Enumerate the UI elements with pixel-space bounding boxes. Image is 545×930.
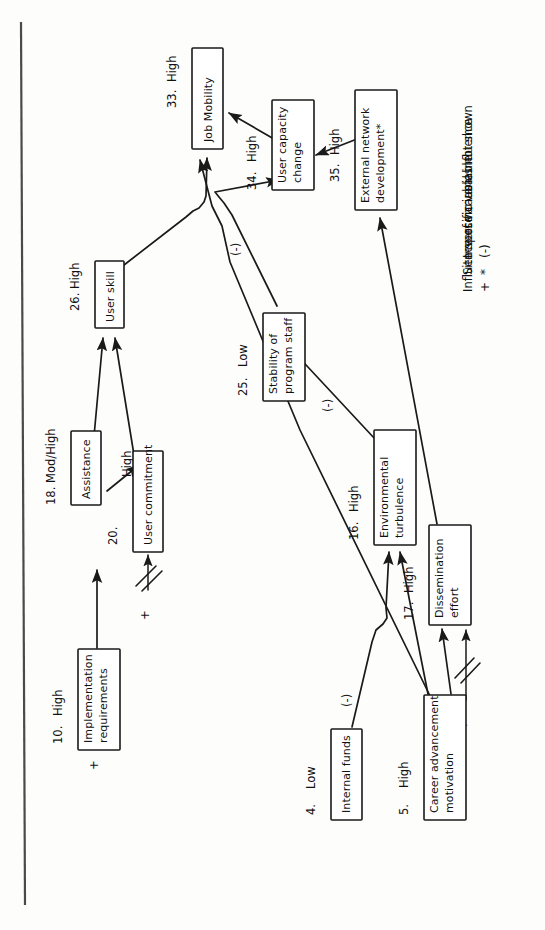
node-label-line2: effort — [448, 587, 461, 618]
sign-plus-implementation: + — [87, 760, 101, 770]
node-number: 35. — [328, 164, 342, 182]
node-number: 4. — [304, 804, 318, 815]
node-user-skill[interactable]: User skill 26. High — [68, 261, 124, 328]
diagram-canvas: + + + High (-) (-) (-) Job Mobility 33. … — [0, 0, 545, 930]
node-label-line2: change — [291, 142, 304, 183]
node-label-line1: Assistance — [80, 439, 93, 499]
node-label-line1: Implementation — [82, 654, 95, 743]
sign-negative-turbulence: (-) — [321, 399, 335, 412]
legend: + Influence of variables not shown * Sit… — [461, 105, 492, 292]
node-assistance[interactable]: Assistance 18. Mod/High — [44, 428, 101, 505]
node-level: High — [51, 690, 65, 716]
node-label-line1: Internal funds — [340, 735, 353, 813]
hashmark-dissemination-b — [461, 663, 480, 683]
node-label-line1: Career advancement — [428, 695, 441, 813]
node-label-line1: External network — [359, 107, 372, 203]
node-label-line1: User skill — [104, 271, 117, 322]
node-internal-funds[interactable]: Internal funds 4. Low — [304, 729, 362, 820]
node-level: High — [68, 263, 82, 289]
node-label-line1: User commitment — [142, 444, 155, 545]
node-level: High — [165, 56, 179, 82]
node-job-mobility[interactable]: Job Mobility 33. High — [165, 48, 223, 149]
node-label-line1: Environmental — [378, 457, 391, 538]
node-label-line1: Job Mobility — [202, 77, 215, 143]
edge-capacity-to-jobmobility — [229, 113, 274, 139]
node-level: Low — [304, 766, 318, 789]
sign-negative-stability: (-) — [229, 243, 243, 256]
node-level: Low — [236, 344, 250, 367]
node-number: 16. — [347, 522, 361, 540]
hashmark-dissemination-a — [455, 658, 474, 678]
edge-stability-to-capacity — [215, 180, 279, 306]
node-label-line2: motivation — [443, 753, 456, 813]
node-number: 20. — [106, 527, 120, 545]
node-level: High — [397, 762, 411, 788]
node-label-line2: program staff — [282, 317, 295, 394]
node-number: 33. — [165, 90, 179, 108]
node-label-line1: User capacity — [276, 106, 289, 183]
sign-negative-funds: (-) — [340, 694, 354, 707]
node-stability-of-program-staff[interactable]: Stability of program staff 25. Low — [236, 313, 305, 401]
node-number: 10. — [51, 726, 65, 744]
node-number: 17. — [402, 602, 416, 620]
node-label-line1: Dissemination — [433, 538, 446, 618]
node-number: 18. — [44, 487, 58, 505]
node-label-line2: requirements — [97, 668, 110, 743]
legend-mark-plus: + — [478, 282, 492, 292]
edge-funds-to-turbulence — [352, 552, 389, 727]
node-number: 34. — [245, 172, 259, 190]
page-edge-rule — [21, 22, 25, 905]
causal-influence-diagram: + + + High (-) (-) (-) Job Mobility 33. … — [0, 0, 545, 930]
node-level: High — [245, 136, 259, 162]
node-number: 5. — [397, 804, 411, 815]
node-number: 25. — [236, 378, 250, 396]
edge-userskill-to-jobmobility — [124, 158, 207, 265]
node-external-network-development[interactable]: External network development* 35. High — [328, 90, 397, 210]
node-label-line1: Stability of — [267, 333, 280, 394]
legend-mark-inverse: (-) — [478, 244, 492, 258]
hashmark-commitment-a — [136, 566, 156, 586]
legend-mark-asterisk: * — [478, 269, 492, 275]
node-level: High — [347, 486, 361, 512]
node-career-advancement-motivation[interactable]: Career advancement motivation 5. High — [397, 695, 466, 820]
node-environmental-turbulence[interactable]: Environmental turbulence 16. High — [347, 430, 416, 545]
node-label-line2: development* — [374, 123, 387, 203]
node-implementation-requirements[interactable]: Implementation requirements 10. High — [51, 649, 120, 750]
node-user-commitment[interactable]: User commitment 20. — [106, 444, 163, 552]
node-level: High — [328, 129, 342, 155]
hashmark-commitment-b — [142, 571, 162, 591]
node-label-line2: turbulence — [393, 477, 406, 538]
label-assistance-to-commitment: High — [120, 451, 134, 477]
edge-career-to-dissemination — [442, 629, 451, 694]
node-user-capacity-change[interactable]: User capacity change 34. High — [245, 100, 314, 190]
sign-plus-commitment: + — [138, 610, 152, 620]
legend-text-inverse: Inverse causal influence — [461, 119, 475, 258]
node-level: Mod/High — [44, 428, 58, 483]
node-level: High — [402, 567, 416, 593]
edge-layer — [84, 113, 480, 740]
node-number: 26. — [68, 293, 82, 311]
